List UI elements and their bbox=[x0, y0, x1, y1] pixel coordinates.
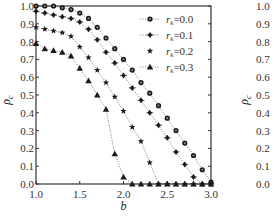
y-axis-label: ρc bbox=[0, 95, 15, 106]
right-plot-partial: 0.00.10.20.30.40.50.60.70.80.91.0ρc bbox=[237, 0, 270, 190]
svg-text:rk=0.1: rk=0.1 bbox=[166, 29, 193, 43]
right-y-tick-label: 0.2 bbox=[256, 142, 270, 154]
right-y-tick-label: 0.9 bbox=[256, 18, 270, 30]
y-tick-label: 0.7 bbox=[20, 53, 34, 65]
y-tick-label: 0.4 bbox=[20, 107, 34, 119]
y-tick-label: 1.0 bbox=[20, 0, 34, 12]
svg-text:rk=0.3: rk=0.3 bbox=[166, 61, 194, 75]
right-y-tick-label: 0.1 bbox=[256, 160, 270, 172]
right-y-tick-label: 0.0 bbox=[256, 178, 270, 190]
y-tick-label: 0.2 bbox=[20, 142, 34, 154]
right-y-tick-label: 0.4 bbox=[256, 107, 270, 119]
right-y-tick-label: 0.8 bbox=[256, 36, 270, 48]
right-y-tick-label: 1.0 bbox=[256, 0, 270, 12]
right-y-axis-label: ρc bbox=[237, 95, 253, 106]
y-tick-label: 0.5 bbox=[20, 89, 34, 101]
svg-text:rk=0.0: rk=0.0 bbox=[166, 13, 194, 27]
x-tick-label: 1.0 bbox=[29, 188, 43, 200]
right-y-tick-label: 0.3 bbox=[256, 125, 270, 137]
x-tick-label: 1.5 bbox=[73, 188, 87, 200]
legend-item: rk=0.3 bbox=[140, 61, 194, 75]
x-tick-label: 2.5 bbox=[160, 188, 174, 200]
figure: 0.00.10.20.30.40.50.60.70.80.91.01.01.52… bbox=[0, 0, 274, 217]
legend-item: rk=0.0 bbox=[140, 13, 194, 27]
y-tick-label: 0.9 bbox=[20, 18, 34, 30]
y-tick-label: 0.3 bbox=[20, 125, 34, 137]
right-y-tick-label: 0.7 bbox=[256, 53, 270, 65]
legend: rk=0.0rk=0.1rk=0.2rk=0.3 bbox=[140, 13, 194, 75]
y-tick-label: 0.8 bbox=[20, 36, 34, 48]
y-tick-label: 0.1 bbox=[20, 160, 34, 172]
x-tick-label: 3.0 bbox=[204, 188, 218, 200]
legend-item: rk=0.2 bbox=[147, 45, 193, 59]
svg-text:rk=0.2: rk=0.2 bbox=[166, 45, 193, 59]
left-plot: 0.00.10.20.30.40.50.60.70.80.91.01.01.52… bbox=[0, 0, 218, 213]
y-tick-label: 0.6 bbox=[20, 71, 34, 83]
x-axis-label: b bbox=[121, 199, 127, 213]
legend-item: rk=0.1 bbox=[140, 29, 193, 43]
right-y-tick-label: 0.6 bbox=[256, 71, 270, 83]
right-y-tick-label: 0.5 bbox=[256, 89, 270, 101]
